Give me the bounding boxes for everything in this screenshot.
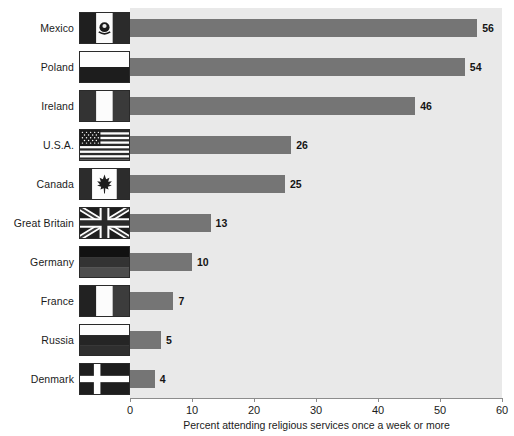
chart-row-russia: Russia	[0, 320, 130, 359]
flag-canada-icon	[79, 168, 130, 200]
chart-row-canada: Canada	[0, 164, 130, 203]
x-axis-tick	[440, 398, 441, 402]
religious-attendance-bar-chart: Mexico Poland Ireland U.S.A.	[0, 0, 514, 436]
bar-denmark	[130, 370, 155, 388]
bar-value-label: 13	[211, 214, 228, 232]
x-axis-tick-label: 60	[496, 404, 508, 416]
bar-ireland	[130, 97, 415, 115]
bar-value-label: 26	[291, 136, 308, 154]
flag-mexico-icon	[79, 12, 130, 44]
x-axis-tick-label: 50	[434, 404, 446, 416]
bar-canada	[130, 175, 285, 193]
chart-row-ireland: Ireland	[0, 86, 130, 125]
bar-value-label: 7	[173, 292, 184, 310]
bar-value-label: 46	[415, 97, 432, 115]
bar-germany	[130, 253, 192, 271]
x-axis-tick-label: 0	[127, 404, 133, 416]
x-axis-tick	[502, 398, 503, 402]
chart-row-france: France	[0, 281, 130, 320]
country-label-column: Mexico Poland Ireland U.S.A.	[0, 8, 130, 398]
plot-area: 56544626251310754	[130, 8, 502, 398]
flag-usa-icon	[79, 129, 130, 161]
chart-row-poland: Poland	[0, 47, 130, 86]
bars-layer: 56544626251310754	[130, 8, 502, 398]
country-label: Canada	[37, 178, 79, 190]
bar-great-britain	[130, 214, 211, 232]
bar-poland	[130, 58, 465, 76]
chart-row-u-s-a: U.S.A.	[0, 125, 130, 164]
country-label: Russia	[41, 334, 79, 346]
bar-value-label: 25	[285, 175, 302, 193]
x-axis-tick-label: 10	[186, 404, 198, 416]
bar-u-s-a	[130, 136, 291, 154]
x-axis-tick	[130, 398, 131, 402]
x-axis-tick-label: 40	[372, 404, 384, 416]
flag-france-icon	[79, 285, 130, 317]
bar-value-label: 10	[192, 253, 209, 271]
country-label: Germany	[30, 256, 79, 268]
country-label: Great Britain	[14, 217, 79, 229]
country-label: U.S.A.	[43, 139, 79, 151]
bar-france	[130, 292, 173, 310]
bar-value-label: 5	[161, 331, 172, 349]
flag-denmark-icon	[79, 363, 130, 395]
chart-row-germany: Germany	[0, 242, 130, 281]
flag-poland-icon	[79, 51, 130, 83]
country-label: Denmark	[31, 373, 79, 385]
bar-value-label: 56	[477, 19, 494, 37]
bar-value-label: 4	[155, 370, 166, 388]
x-axis-tick	[254, 398, 255, 402]
flag-russia-icon	[79, 324, 130, 356]
x-axis-tick	[378, 398, 379, 402]
flag-germany-icon	[79, 246, 130, 278]
x-axis-tick	[192, 398, 193, 402]
x-axis-tick	[316, 398, 317, 402]
country-label: France	[41, 295, 79, 307]
bar-russia	[130, 331, 161, 349]
x-axis-title: Percent attending religious services onc…	[130, 419, 503, 431]
bar-mexico	[130, 19, 477, 37]
flag-great-britain-icon	[79, 207, 130, 239]
chart-row-great-britain: Great Britain	[0, 203, 130, 242]
country-label: Mexico	[40, 22, 79, 34]
chart-row-mexico: Mexico	[0, 8, 130, 47]
country-label: Poland	[41, 61, 79, 73]
x-axis-tick-label: 30	[310, 404, 322, 416]
country-label: Ireland	[41, 100, 79, 112]
x-axis-tick-label: 20	[248, 404, 260, 416]
chart-row-denmark: Denmark	[0, 359, 130, 398]
flag-ireland-icon	[79, 90, 130, 122]
bar-value-label: 54	[465, 58, 482, 76]
